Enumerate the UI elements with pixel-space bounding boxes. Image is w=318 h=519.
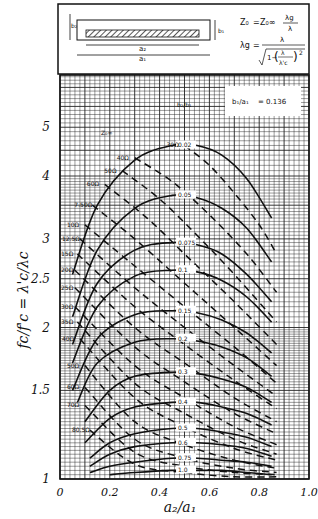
formula1-rhs: Z₀∞ bbox=[260, 18, 275, 27]
z-label-10: 30Ω bbox=[61, 303, 74, 310]
z-label-8: 20Ω bbox=[61, 266, 74, 273]
y-tick-label: 5 bbox=[42, 120, 50, 134]
x-tick-label: 0.4 bbox=[151, 486, 169, 499]
curve-label-0.75: 0.75 bbox=[178, 454, 192, 461]
ratio-value: = 0.136 bbox=[258, 98, 287, 106]
ridge-hatched bbox=[86, 30, 199, 37]
z-label-2: 50Ω bbox=[104, 167, 117, 174]
z-label-0: 30Ω bbox=[167, 141, 180, 148]
formula2-num: λ bbox=[280, 36, 284, 44]
z-label: Z₀∞ bbox=[101, 129, 113, 136]
y-tick-label: 2.5 bbox=[30, 272, 50, 286]
b-ratio-curve-0.02 bbox=[73, 144, 272, 274]
curve-label-0.2: 0.2 bbox=[178, 335, 188, 342]
z-label-4: 7.50Ω bbox=[74, 201, 92, 208]
formula1-den: λ bbox=[288, 25, 292, 33]
formula2-inner-num: λ bbox=[281, 49, 285, 56]
a1-label: a₁ bbox=[139, 55, 146, 63]
y-axis-label: fc/f'c = λ'c/λc bbox=[15, 251, 31, 349]
a2-label: a₂ bbox=[139, 45, 146, 53]
y-tick-label: 2 bbox=[41, 321, 50, 335]
x-tick-label: 0.2 bbox=[101, 486, 119, 499]
z-label-13: 50Ω bbox=[67, 362, 80, 369]
curve-label-0.4: 0.4 bbox=[178, 398, 188, 405]
b-ratio-curve-0.3 bbox=[85, 372, 272, 422]
formula2-eq: = bbox=[253, 41, 260, 50]
x-tick-label: 0.8 bbox=[250, 486, 268, 499]
ratio-label: b₁/a₁ bbox=[232, 98, 249, 106]
chart-container: a₂ a₁ b₁ b₂ Z₀ = Z₀∞ λg λ λg = λ 1− λ λ'… bbox=[0, 0, 318, 519]
curve-label-0.15: 0.15 bbox=[178, 307, 192, 314]
curve-label-1.0: 1.0 bbox=[178, 466, 188, 473]
z-label-9: 25Ω bbox=[61, 284, 74, 291]
curve-label-0.3: 0.3 bbox=[178, 368, 188, 375]
chart-svg: a₂ a₁ b₁ b₂ Z₀ = Z₀∞ λg λ λg = λ 1− λ λ'… bbox=[0, 0, 318, 519]
x-tick-label: 0 bbox=[57, 486, 64, 499]
z-label-5: 10Ω bbox=[67, 221, 80, 228]
x-axis-label: a₂/a₁ bbox=[164, 499, 197, 515]
formula2-left-paren: ( bbox=[274, 50, 279, 64]
curve-label-0.02: 0.02 bbox=[178, 141, 192, 148]
curve-label-0.05: 0.05 bbox=[178, 191, 192, 198]
y-tick-label: 4 bbox=[41, 169, 50, 183]
b2-label: b₂ bbox=[71, 22, 78, 29]
formula2-exp: 2 bbox=[299, 49, 303, 56]
z-label-16: 80.5Ω bbox=[72, 426, 90, 433]
formula2-inner-den: λ'c bbox=[279, 59, 288, 66]
z-label-6: 12.5Ω bbox=[62, 235, 80, 242]
z-label-7: 15Ω bbox=[61, 250, 74, 257]
b-ratio-label: b₂/b₁ bbox=[177, 101, 192, 108]
y-tick-label: 3 bbox=[42, 232, 50, 246]
curve-label-0.1: 0.1 bbox=[178, 266, 188, 273]
formula2-lhs: λg bbox=[240, 41, 250, 50]
y-tick-label: 1.5 bbox=[31, 383, 50, 397]
z-label-14: 60Ω bbox=[67, 383, 80, 390]
curve-label-0.075: 0.075 bbox=[178, 239, 195, 246]
curve-label-0.5: 0.5 bbox=[178, 424, 188, 431]
z-label-1: 40Ω bbox=[117, 154, 130, 161]
formula2-right-paren: ) bbox=[293, 50, 298, 64]
x-tick-label: 1.0 bbox=[300, 486, 318, 499]
header-box bbox=[58, 4, 309, 74]
z-label-12: 40Ω bbox=[62, 335, 75, 342]
x-tick-label: 0.6 bbox=[201, 486, 219, 499]
formula1-num: λg bbox=[285, 14, 294, 22]
formula1-eq: = bbox=[253, 18, 260, 27]
y-tick-label: 1 bbox=[42, 472, 50, 486]
z-label-11: 35Ω bbox=[61, 318, 74, 325]
z-label-3: 60Ω bbox=[87, 180, 100, 187]
b1-label: b₁ bbox=[218, 27, 225, 34]
formula1-lhs: Z₀ bbox=[240, 18, 249, 27]
curve-label-0.6: 0.6 bbox=[178, 439, 188, 446]
z-label-15: 70Ω bbox=[67, 401, 80, 408]
